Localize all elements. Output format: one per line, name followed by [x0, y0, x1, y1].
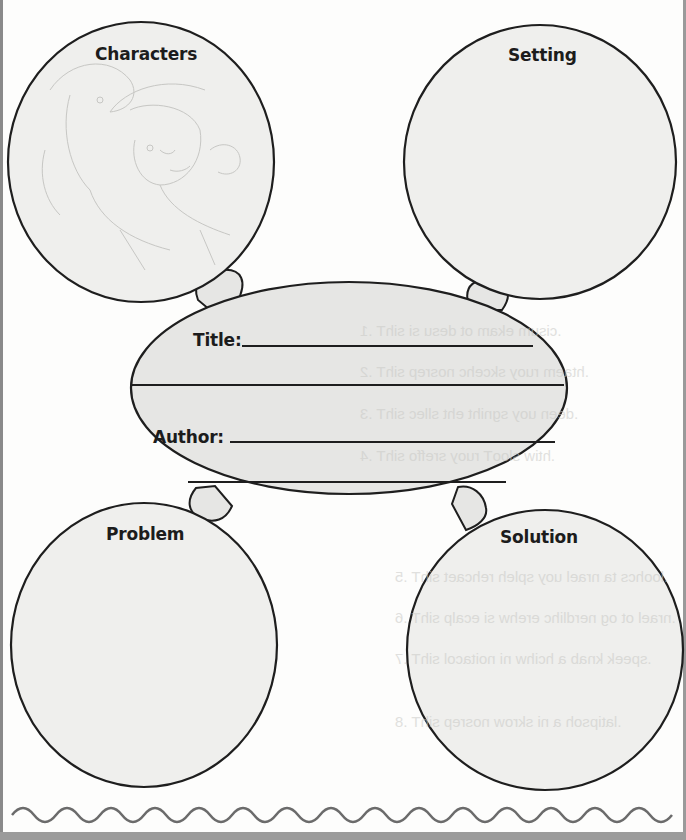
problem-label: Problem [106, 524, 184, 544]
author-label: Author: [153, 427, 224, 447]
connector-bottom-right [452, 486, 486, 530]
bleed-through-text: .htiw slooT ruoy sreffo sihT .4 [360, 447, 555, 464]
worksheet-page: .cisum ekam ot desu si sihT .1 .htaem ru… [0, 0, 686, 840]
bleed-through-text: .deen uoy sgniht eht sllec sihT .3 [360, 405, 578, 422]
solution-writing-area[interactable] [430, 557, 660, 767]
solution-label: Solution [500, 527, 578, 547]
bleed-through-text: .htaem ruoy skcehc nosrep sihT .2 [360, 363, 589, 380]
title-label: Title: [193, 330, 242, 350]
problem-writing-area[interactable] [33, 552, 255, 762]
setting-label: Setting [508, 45, 577, 65]
characters-writing-area[interactable] [30, 72, 252, 272]
author-field[interactable] [232, 422, 554, 442]
setting-writing-area[interactable] [430, 72, 652, 272]
wavy-border [12, 808, 672, 822]
characters-label: Characters [95, 44, 197, 64]
title-field[interactable] [244, 326, 532, 346]
